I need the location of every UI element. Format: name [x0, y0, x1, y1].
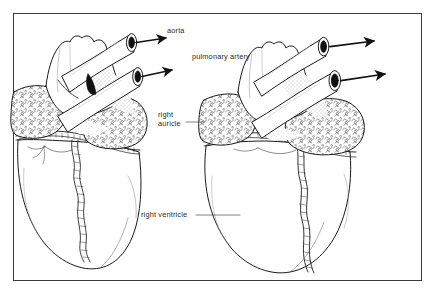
left-heart-view — [11, 34, 172, 269]
label-right-auricle-line2: auricle — [158, 119, 181, 128]
aorta-flow-arrow-right — [330, 41, 374, 47]
label-aorta: aorta — [167, 26, 185, 35]
aorta-flow-arrow-left — [136, 38, 166, 43]
label-pulmonary-artery: pulmonary artery — [192, 52, 250, 61]
heart-diagram-artwork — [0, 0, 436, 296]
label-right-ventricle: right ventricle — [141, 210, 187, 219]
right-heart-view — [199, 37, 385, 273]
label-right-auricle-line1: right — [158, 110, 173, 119]
pulmonary-flow-arrow-right — [341, 74, 385, 81]
figure-canvas: aorta pulmonary artery right auricle rig… — [0, 0, 436, 296]
pulmonary-flow-arrow-left — [142, 70, 172, 77]
